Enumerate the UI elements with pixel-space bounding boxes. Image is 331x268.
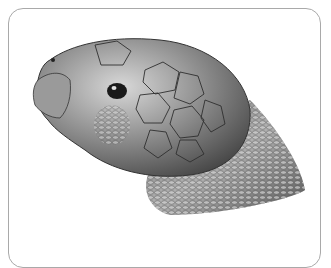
- tortoise-head-illustration: [0, 0, 331, 240]
